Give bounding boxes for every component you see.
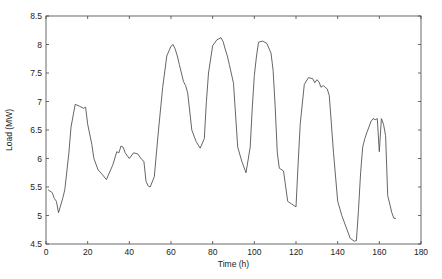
plot-frame [46,16,421,244]
x-tick-label: 60 [166,247,176,257]
y-tick-label: 8.5 [30,11,42,21]
x-tick-label: 100 [247,247,261,257]
x-tick-label: 120 [289,247,303,257]
y-tick-label: 5 [37,211,42,221]
y-tick-label: 8 [37,40,42,50]
x-axis-label: Time (h) [218,259,249,269]
x-tick-label: 140 [331,247,345,257]
x-tick-label: 80 [208,247,218,257]
y-axis-label: Load (MW) [4,109,14,151]
line-chart: 020406080100120140160180 4.555.566.577.5… [0,0,442,279]
x-tick-label: 180 [414,247,428,257]
y-tick-label: 7.5 [30,68,42,78]
y-tick-label: 5.5 [30,182,42,192]
y-tick-label: 6 [37,154,42,164]
x-tick-label: 20 [83,247,93,257]
y-tick-label: 4.5 [30,239,42,249]
x-tick-label: 40 [125,247,135,257]
y-tick-label: 6.5 [30,125,42,135]
x-tick-label: 160 [372,247,386,257]
y-tick-label: 7 [37,97,42,107]
x-tick-label: 0 [44,247,49,257]
